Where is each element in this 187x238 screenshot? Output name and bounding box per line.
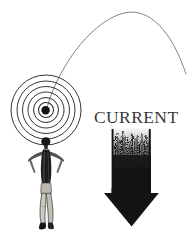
figure-left-foot [39,223,46,230]
swimmer-figure [28,137,64,229]
figure-left-leg [40,193,46,224]
figure-right-leg [46,193,53,224]
arrow-shaft-core-mid [112,155,151,171]
figure-neck [44,145,48,149]
ripple-rings [11,75,81,145]
arrow-shaft-left-rail [112,129,114,195]
ripple-core-dot [41,106,49,114]
trajectory-arc [47,12,187,110]
current-arrow [104,128,159,226]
figure-right-forearm [56,159,63,173]
illustration-canvas: CURRENT [0,0,187,238]
figure-right-foot [48,223,54,230]
current-label: CURRENT [94,109,178,127]
arrow-head [104,193,159,226]
figure-torso [41,150,51,186]
figure-left-forearm [29,159,36,173]
arrow-shaft-right-rail [149,129,151,195]
arrow-head-joint [112,188,151,195]
figure-head [41,137,50,146]
